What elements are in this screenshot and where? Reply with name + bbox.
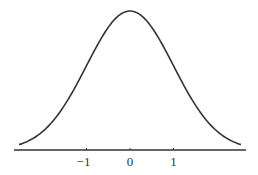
x-tick-label: 1 <box>170 154 177 169</box>
chart: −101 <box>0 0 258 175</box>
x-tick-label: 0 <box>127 154 134 169</box>
x-tick-label: −1 <box>77 154 91 169</box>
x-ticks: −101 <box>77 148 177 169</box>
density-curve <box>19 11 241 145</box>
